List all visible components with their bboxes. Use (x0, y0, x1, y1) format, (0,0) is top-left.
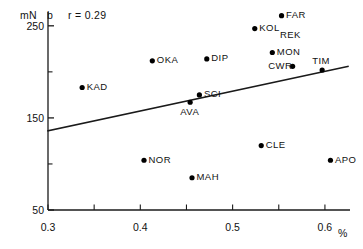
point-label-dip: DIP (211, 53, 228, 63)
point-label-tim: TIM (312, 56, 330, 66)
data-point-mah (189, 175, 194, 180)
point-label-cwr: CWR (268, 61, 292, 71)
point-label-ava: AVA (180, 107, 199, 117)
point-label-cle: CLE (266, 140, 286, 150)
point-label-sci: SCI (204, 89, 221, 99)
x-tick-label: 0.3 (31, 222, 65, 233)
point-label-nor: NOR (149, 155, 171, 165)
x-tick-label: 0.4 (123, 222, 157, 233)
data-point-far (279, 13, 284, 18)
data-point-oka (150, 58, 155, 63)
data-point-kol (252, 26, 257, 31)
point-label-mon: MON (277, 47, 301, 57)
y-tick-label: 250 (18, 21, 44, 32)
y-tick-label: 50 (18, 205, 44, 216)
point-label-apo: APO (335, 155, 356, 165)
plot-canvas (0, 0, 363, 249)
data-point-dip (204, 56, 209, 61)
data-point-sci (197, 92, 202, 97)
y-axis-unit-label: mN (20, 10, 37, 21)
regression-line (48, 66, 348, 130)
x-tick-label: 0.6 (308, 222, 342, 233)
data-point-tim (320, 67, 325, 72)
point-label-kad: KAD (87, 82, 108, 92)
point-label-mah: MAH (197, 172, 219, 182)
point-label-kol: KOL (259, 23, 279, 33)
data-point-mon (270, 50, 275, 55)
correlation-annotation: r = 0.29 (68, 10, 106, 21)
y-tick-label: 150 (18, 113, 44, 124)
panel-letter: b (47, 10, 53, 21)
x-tick-label: 0.5 (216, 222, 250, 233)
data-point-nor (141, 158, 146, 163)
point-label-rek: REK (280, 30, 301, 40)
data-point-apo (328, 158, 333, 163)
point-label-far: FAR (286, 10, 306, 20)
point-label-oka: OKA (157, 55, 178, 65)
scatter-plot-figure: mN b r = 0.29 % 25015050 0.30.40.50.6 KA… (0, 0, 363, 249)
data-point-kad (80, 85, 85, 90)
data-point-cle (259, 143, 264, 148)
data-point-ava (188, 100, 193, 105)
